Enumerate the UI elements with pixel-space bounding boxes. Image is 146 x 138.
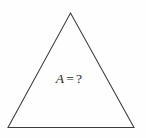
area-symbol: A	[56, 71, 65, 86]
geometry-figure: A=?	[0, 0, 146, 138]
equals-sign: =	[65, 71, 76, 86]
triangle-canvas	[0, 0, 146, 138]
area-label: A=?	[0, 71, 142, 86]
area-value-unknown: ?	[76, 71, 82, 86]
